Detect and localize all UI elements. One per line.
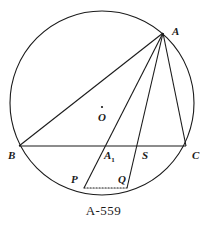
chord-AC	[163, 33, 186, 146]
circumcircle	[10, 11, 194, 195]
center-point-marker	[101, 106, 103, 108]
geometry-figure: A B C A1 S P Q O A-559	[0, 0, 207, 229]
vertex-label-a1: A1	[104, 150, 115, 164]
vertex-label-p: P	[71, 174, 78, 185]
chord-AB	[19, 33, 163, 146]
cevian-A-to-P	[84, 33, 163, 188]
vertex-label-c: C	[192, 150, 199, 161]
figure-caption: A-559	[0, 203, 207, 219]
cevian-A-to-Q	[127, 33, 163, 188]
vertex-label-s: S	[142, 150, 148, 161]
vertex-label-q: Q	[118, 174, 126, 185]
vertex-label-b: B	[8, 150, 15, 161]
center-label-o: O	[98, 112, 106, 123]
vertex-label-a1-subscript: 1	[111, 156, 115, 164]
vertex-label-a: A	[172, 26, 179, 37]
